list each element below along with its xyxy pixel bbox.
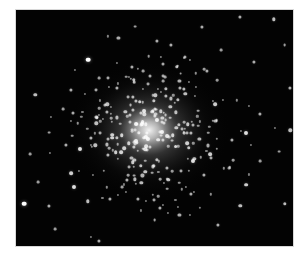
cluster-star [95,88,98,91]
cluster-star [115,136,118,139]
cluster-star [216,79,219,82]
field-star [283,202,286,205]
field-star [203,174,206,177]
cluster-star [94,143,97,146]
cluster-star [135,182,137,184]
cluster-star [133,81,136,84]
field-star [64,143,67,146]
cluster-star [98,114,100,116]
cluster-star [184,92,187,95]
cluster-star [186,123,189,126]
cluster-star [236,99,238,101]
field-star [289,129,292,132]
cluster-star [195,86,197,88]
cluster-star [176,64,179,67]
cluster-star [180,188,182,190]
cluster-star [189,59,191,61]
field-star [95,122,98,125]
cluster-star [98,107,101,110]
field-star [258,160,261,163]
cluster-star [107,76,110,79]
field-star [244,131,248,135]
cluster-star [162,80,165,83]
cluster-star [173,102,176,105]
cluster-star [133,165,136,168]
cluster-star [131,95,134,98]
field-star [109,197,112,200]
cluster-star [174,111,177,114]
field-star [214,103,218,107]
cluster-star [128,113,131,116]
cluster-star [210,193,212,195]
cluster-star [165,87,168,90]
cluster-star [160,56,162,58]
cluster-star [184,127,186,129]
cluster-star [125,191,127,193]
cluster-star [183,57,185,59]
cluster-star [106,138,109,141]
cluster-star [208,125,210,127]
cluster-star [194,95,196,97]
cluster-star [161,63,164,66]
cluster-star [207,144,210,147]
cluster-star [92,174,94,176]
cluster-star [160,91,162,93]
field-star [98,240,101,243]
cluster-star [132,145,135,148]
cluster-star [152,99,155,102]
field-star [278,150,281,153]
cluster-star [127,166,130,169]
cluster-star [91,146,93,148]
field-star [244,183,248,187]
cluster-star [157,88,159,90]
cluster-star [196,109,199,112]
cluster-star [171,139,174,142]
cluster-star [140,209,142,211]
cluster-star [110,133,114,137]
cluster-star [102,118,104,120]
cluster-star [174,126,177,129]
cluster-star [99,99,101,101]
cluster-star [129,103,132,106]
cluster-star [159,134,162,137]
cluster-star [105,186,107,188]
cluster-star [144,170,147,173]
field-star [239,16,242,19]
cluster-star [215,148,217,150]
cluster-star [115,116,118,119]
cluster-star [142,88,144,90]
cluster-star [121,185,124,188]
cluster-star [165,95,168,98]
cluster-star [166,187,169,190]
cluster-star [174,199,176,201]
cluster-star [189,214,191,216]
cluster-star [171,134,175,138]
cluster-star [95,116,98,119]
cluster-star [117,82,119,84]
field-star [158,207,161,210]
cluster-star [187,158,189,160]
cluster-star [80,115,82,117]
cluster-star [90,236,92,238]
field-star [70,89,73,92]
cluster-star [187,146,191,150]
field-star [98,77,101,80]
cluster-star [155,118,159,122]
cluster-star [111,121,113,123]
cluster-star [144,159,147,162]
cluster-star [171,170,174,173]
cluster-star [101,197,103,199]
cluster-star [167,212,169,214]
cluster-star [71,112,74,115]
cluster-star [199,120,201,122]
cluster-star [107,35,109,37]
field-star [258,112,261,115]
cluster-star [126,96,129,99]
field-star [239,204,242,207]
cluster-star [89,136,92,139]
cluster-star [200,156,202,158]
cluster-star [162,138,165,141]
cluster-star [49,152,51,154]
cluster-star [153,94,156,97]
cluster-star [248,173,250,175]
